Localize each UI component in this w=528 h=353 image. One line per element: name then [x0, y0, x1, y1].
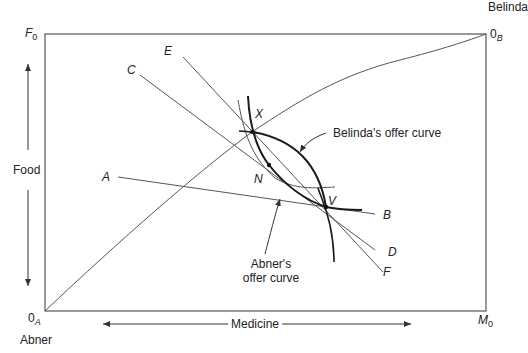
- abner-label-arrow: [265, 199, 280, 254]
- label-n: N: [254, 172, 263, 186]
- axis-label-medicine: Medicine: [231, 317, 279, 331]
- annotation-belinda-offer-curve: Belinda's offer curve: [333, 126, 441, 140]
- point-n: [267, 163, 271, 167]
- label-abner: Abner: [20, 333, 52, 347]
- label-e: E: [164, 44, 172, 58]
- axis-label-food: Food: [13, 163, 40, 177]
- price-line-cd: [140, 75, 375, 250]
- label-a: A: [102, 170, 110, 184]
- label-v: V: [328, 194, 336, 208]
- point-x: [250, 130, 254, 134]
- label-f0: F0: [25, 26, 37, 40]
- label-b: B: [383, 208, 391, 222]
- label-0a: 0A: [28, 311, 41, 325]
- belinda-label-arrow: [300, 133, 326, 152]
- label-belinda: Belinda: [488, 0, 528, 14]
- label-x: X: [255, 107, 263, 121]
- label-0b: 0B: [490, 27, 503, 41]
- label-c: C: [127, 63, 136, 77]
- abner-offer-curve: [248, 96, 362, 210]
- annotation-abner-offer-curve: Abner's offer curve: [236, 257, 306, 285]
- label-d: D: [388, 245, 397, 259]
- annotation-abner-line1: Abner's: [236, 257, 306, 271]
- annotation-abner-line2: offer curve: [236, 271, 306, 285]
- belinda-indifference-x: [239, 131, 258, 133]
- label-m0: M0: [478, 313, 493, 327]
- price-line-ef: [183, 57, 383, 272]
- label-f: F: [383, 265, 390, 279]
